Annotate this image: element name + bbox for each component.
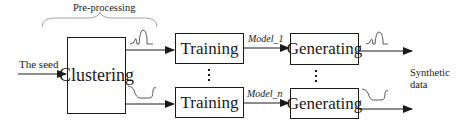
clustering-node: Clustering [67, 37, 126, 114]
generating-node-bottom: Generating [290, 88, 359, 119]
preprocessing-label: Pre-processing [73, 2, 135, 13]
training-node-bottom: Training [175, 87, 244, 118]
preprocessing-brace [42, 12, 157, 27]
training-top-label: Training [181, 39, 239, 59]
synthetic-data-label: Synthetic data [410, 67, 460, 91]
seed-label: The seed [19, 58, 58, 70]
model-n-label: Model_n [247, 88, 283, 99]
clustering-label: Clustering [59, 65, 134, 86]
training-node-top: Training [175, 33, 244, 64]
waveform-peak-output-icon [366, 32, 388, 44]
waveform-peak-icon [130, 30, 153, 44]
generating-node-top: Generating [290, 33, 359, 65]
ellipsis-training-icon [208, 69, 210, 81]
ellipsis-generating-icon [315, 70, 317, 82]
waveform-dip-output-icon [362, 89, 388, 100]
generating-top-label: Generating [287, 39, 363, 59]
generating-bottom-label: Generating [287, 94, 363, 114]
training-bottom-label: Training [181, 93, 239, 113]
waveform-dip-icon [128, 86, 156, 98]
model-1-label: Model_1 [248, 33, 284, 44]
